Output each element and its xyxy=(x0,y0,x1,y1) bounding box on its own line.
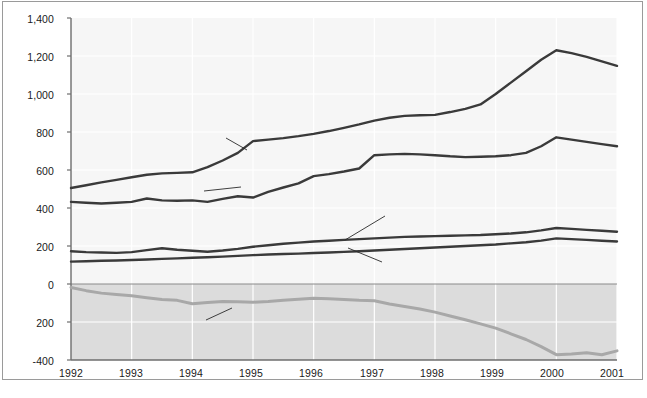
chart-plot xyxy=(0,0,647,398)
chart-figure: Annual rates in billions of dollars 1,40… xyxy=(0,0,647,398)
